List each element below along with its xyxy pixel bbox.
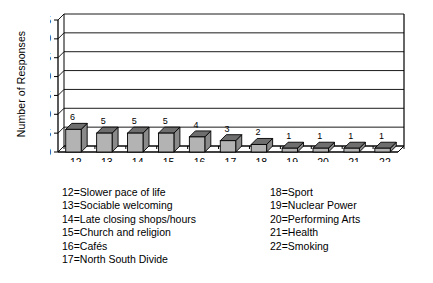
y-axis-ticks-group: 05101520253035 bbox=[50, 14, 58, 158]
bar-chart-figure: Number of Responses 05101520253035 65554… bbox=[0, 0, 433, 283]
bar-value-label: 1 bbox=[379, 131, 384, 141]
gridline-connector bbox=[58, 89, 64, 95]
x-tick-label: 14 bbox=[132, 156, 144, 162]
bar-front-face bbox=[158, 133, 173, 152]
bar-front-face bbox=[344, 148, 359, 152]
y-tick-label: 25 bbox=[50, 51, 51, 63]
bar-front-face bbox=[66, 129, 81, 152]
gridline-connector bbox=[58, 52, 64, 58]
back-wall bbox=[64, 14, 404, 146]
x-tick-label: 18 bbox=[255, 156, 267, 162]
y-tick-label: 10 bbox=[50, 108, 51, 120]
bar-value-label: 1 bbox=[317, 131, 322, 141]
bar-value-label: 6 bbox=[70, 112, 75, 122]
y-tick-label: 35 bbox=[50, 14, 51, 26]
gridline-connector bbox=[58, 71, 64, 77]
plot-svg: 05101520253035 65554321111 1213141516171… bbox=[50, 10, 406, 162]
y-tick-label: 0 bbox=[50, 146, 51, 158]
bar-value-label: 3 bbox=[224, 124, 229, 134]
bar-front-face bbox=[282, 148, 297, 152]
bar-front-face bbox=[251, 144, 266, 152]
gridline-connector bbox=[58, 146, 64, 152]
legend-entry: 20=Performing Arts bbox=[270, 213, 360, 226]
bar-front-face bbox=[220, 141, 235, 152]
bar-front-face bbox=[375, 148, 390, 152]
bar-value-label: 2 bbox=[255, 127, 260, 137]
bar-column bbox=[97, 127, 118, 152]
bar-column bbox=[189, 131, 210, 152]
bar-front-face bbox=[313, 148, 328, 152]
y-axis-title: Number of Responses bbox=[15, 14, 27, 154]
gridline-connector bbox=[58, 33, 64, 39]
floor-right-edge bbox=[398, 146, 404, 152]
x-tick-label: 21 bbox=[348, 156, 360, 162]
bar-column bbox=[128, 127, 149, 152]
bar-value-label: 5 bbox=[101, 116, 106, 126]
x-tick-label: 19 bbox=[286, 156, 298, 162]
x-tick-label: 15 bbox=[163, 156, 175, 162]
plot-area: 05101520253035 65554321111 1213141516171… bbox=[50, 10, 406, 162]
legend-entry: 13=Sociable welcoming bbox=[62, 199, 196, 212]
y-tick-label: 30 bbox=[50, 32, 51, 44]
bar-front-face bbox=[97, 133, 112, 152]
legend-entry: 22=Smoking bbox=[270, 240, 360, 253]
y-tick-label: 5 bbox=[50, 127, 51, 139]
bar-value-label: 4 bbox=[194, 120, 199, 130]
legend-entry: 17=North South Divide bbox=[62, 253, 196, 266]
x-tick-label: 20 bbox=[317, 156, 329, 162]
bar-column bbox=[158, 127, 179, 152]
bar-value-label: 5 bbox=[163, 116, 168, 126]
x-tick-label: 16 bbox=[194, 156, 206, 162]
gridline-connector bbox=[58, 14, 64, 20]
legend-entry: 21=Health bbox=[270, 226, 360, 239]
legend-entry: 12=Slower pace of life bbox=[62, 186, 196, 199]
x-tick-label: 22 bbox=[379, 156, 391, 162]
bar-value-label: 1 bbox=[286, 131, 291, 141]
legend-entry: 18=Sport bbox=[270, 186, 360, 199]
bar-column bbox=[220, 135, 241, 152]
legend-column-right: 18=Sport19=Nuclear Power20=Performing Ar… bbox=[270, 186, 360, 253]
y-tick-label: 15 bbox=[50, 89, 51, 101]
legend-entry: 16=Cafés bbox=[62, 240, 196, 253]
legend-entry: 15=Church and religion bbox=[62, 226, 196, 239]
gridline-connector bbox=[58, 127, 64, 133]
x-tick-label: 17 bbox=[225, 156, 237, 162]
gridline-connector bbox=[58, 108, 64, 114]
bar-column bbox=[66, 123, 87, 152]
legend-entry: 14=Late closing shops/hours bbox=[62, 213, 196, 226]
bar-value-label: 5 bbox=[132, 116, 137, 126]
bar-front-face bbox=[189, 137, 204, 152]
x-tick-label: 12 bbox=[70, 156, 82, 162]
x-tick-label: 13 bbox=[101, 156, 113, 162]
bar-front-face bbox=[128, 133, 143, 152]
legend: 12=Slower pace of life13=Sociable welcom… bbox=[0, 186, 433, 283]
legend-entry: 19=Nuclear Power bbox=[270, 199, 360, 212]
y-tick-label: 20 bbox=[50, 70, 51, 82]
bar-value-label: 1 bbox=[348, 131, 353, 141]
legend-column-left: 12=Slower pace of life13=Sociable welcom… bbox=[62, 186, 196, 266]
